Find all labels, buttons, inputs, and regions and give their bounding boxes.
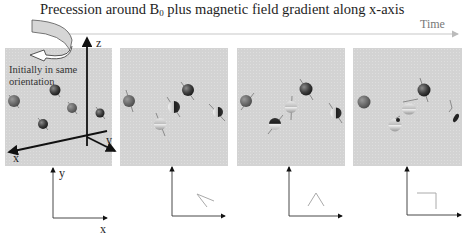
z-axis-label: z xyxy=(96,36,101,51)
x-axis-label-3d: x xyxy=(13,151,19,166)
y-axis-label-2d: y xyxy=(59,166,65,181)
projection-4 xyxy=(417,193,436,209)
precession-arrow-icon xyxy=(30,20,72,61)
axes-2d-3 xyxy=(289,167,342,216)
axes-2d-4 xyxy=(407,167,461,215)
x-axis-label-2d: x xyxy=(100,222,106,237)
diagram-graphics xyxy=(0,0,466,240)
note-line-1: Initially in same xyxy=(9,64,77,76)
axes-2d-2 xyxy=(172,167,225,216)
projection-2 xyxy=(197,194,214,207)
projection-3 xyxy=(308,193,324,206)
initial-orientation-note: Initially in same orientation xyxy=(9,64,77,88)
y-axis-label-3d: y xyxy=(106,133,112,148)
spins-panel-2 xyxy=(123,82,225,136)
spins-panel-1 xyxy=(8,84,105,130)
note-line-2: orientation xyxy=(9,76,77,88)
spins-panel-3 xyxy=(240,79,342,134)
spins-panel-4 xyxy=(358,78,461,132)
